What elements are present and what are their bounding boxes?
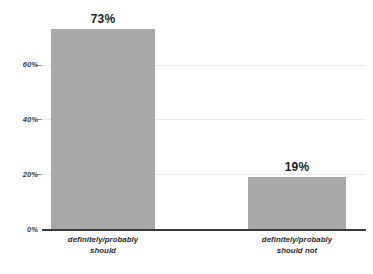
x-axis-category-label-1-line-0: definitely/probably — [237, 235, 357, 246]
x-axis-category-label-0-line-0: definitely/probably — [43, 235, 163, 246]
bar-definitely-probably-should[interactable] — [51, 29, 155, 229]
y-axis-tick-label-20: 20% — [2, 170, 38, 179]
bar-value-label-1: 19% — [257, 160, 337, 174]
y-axis-tick-label-60: 60% — [2, 60, 38, 69]
bar-definitely-probably-should-not[interactable] — [248, 177, 346, 229]
x-axis-line — [42, 229, 366, 231]
y-axis-tick-label-40: 40% — [2, 115, 38, 124]
y-axis-labels: 60% 40% 20% 0% — [0, 0, 38, 240]
x-axis-category-label-1-line-1: should not — [237, 246, 357, 257]
bar-value-label-0: 73% — [63, 12, 143, 26]
x-axis-category-label-0-line-1: should — [43, 246, 163, 257]
y-axis-tick-label-0: 0% — [2, 225, 38, 234]
x-axis-category-label-1: definitely/probably should not — [237, 235, 357, 256]
plot-area — [42, 0, 366, 230]
x-axis-category-label-0: definitely/probably should — [43, 235, 163, 256]
bar-chart: 60% 40% 20% 0% 73% 19% definitely/probab… — [0, 0, 373, 274]
